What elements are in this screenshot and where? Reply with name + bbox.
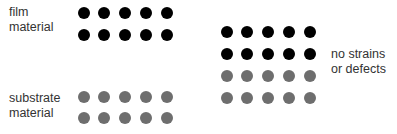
substrate-atom	[221, 92, 233, 104]
substrate-atom	[283, 70, 295, 82]
substrate-atom	[221, 70, 233, 82]
substrate-atom	[241, 70, 253, 82]
substrate-atom	[283, 92, 295, 104]
substrate-atom	[304, 70, 316, 82]
substrate-atom	[241, 92, 253, 104]
substrate-atom	[304, 92, 316, 104]
combined-substrate-atom-lattice	[0, 0, 397, 134]
substrate-atom	[262, 70, 274, 82]
substrate-atom	[262, 92, 274, 104]
